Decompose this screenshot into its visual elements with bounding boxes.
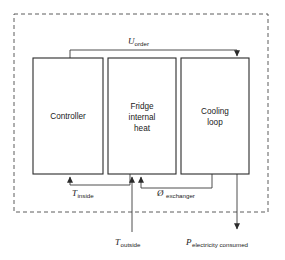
signal-line-u-order: [70, 50, 237, 58]
block-fridge-internal-heat-label-line-2: internal: [129, 113, 156, 122]
label-p-electricity-consumed-subscript: electricity consumed: [192, 241, 249, 248]
label-phi-exchanger-symbol: Ø: [156, 188, 164, 198]
label-p-electricity-consumed: P electricity consumed: [185, 237, 249, 248]
block-fridge-internal-heat[interactable]: Fridge internal heat: [108, 58, 176, 174]
block-controller-label: Controller: [50, 112, 86, 121]
signal-line-t-inside: [70, 174, 130, 185]
label-t-inside-subscript: inside: [78, 192, 95, 199]
block-fridge-internal-heat-label-line-1: Fridge: [130, 102, 154, 111]
label-t-outside: T outside: [115, 237, 141, 248]
label-phi-exchanger: Ø exchanger: [156, 188, 195, 199]
diagram-canvas: Controller Fridge internal heat Cooling …: [0, 0, 285, 260]
block-cooling-loop-rect[interactable]: [181, 58, 249, 174]
block-fridge-internal-heat-label-line-3: heat: [134, 124, 151, 133]
signal-line-phi-exchanger: [141, 174, 212, 188]
block-cooling-loop-label-line-1: Cooling: [201, 107, 229, 116]
label-phi-exchanger-subscript: exchanger: [166, 192, 195, 199]
label-t-inside: T inside: [72, 188, 94, 199]
label-u-order: U order: [128, 36, 149, 47]
block-controller[interactable]: Controller: [33, 58, 103, 174]
label-u-order-subscript: order: [135, 40, 149, 47]
label-p-electricity-consumed-symbol: P: [185, 237, 192, 247]
block-cooling-loop-label-line-2: loop: [207, 118, 223, 127]
block-diagram: Controller Fridge internal heat Cooling …: [0, 0, 285, 260]
block-cooling-loop[interactable]: Cooling loop: [181, 58, 249, 174]
label-t-outside-subscript: outside: [121, 241, 142, 248]
